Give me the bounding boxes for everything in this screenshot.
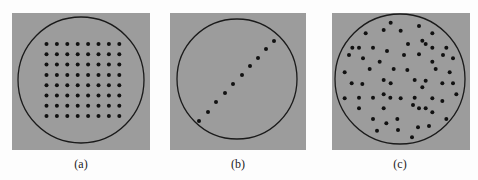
sample-dot (444, 117, 448, 121)
sample-dot (343, 70, 347, 74)
sample-dot (427, 124, 431, 128)
sample-dot (430, 31, 434, 35)
sample-dot (86, 73, 90, 77)
sample-dot (371, 117, 375, 121)
panel-c (332, 13, 470, 150)
sample-dot (55, 94, 59, 98)
sample-dot (65, 73, 69, 77)
boundary-circle (18, 17, 144, 143)
sample-dot (86, 114, 90, 118)
sample-dot (357, 96, 361, 100)
sample-dot (440, 81, 444, 85)
sample-dot (430, 46, 434, 50)
sample-dot (117, 104, 121, 108)
sample-dot (350, 46, 354, 50)
sample-dot (420, 39, 424, 43)
sample-dot (382, 28, 386, 32)
sample-dot (97, 52, 101, 56)
sample-dot (97, 83, 101, 87)
sample-dot (382, 92, 386, 96)
sample-dot (107, 94, 111, 98)
sample-dot (117, 83, 121, 87)
sample-dot (107, 114, 111, 118)
sample-dot (45, 104, 49, 108)
sample-dot (413, 78, 417, 82)
sample-dot (402, 53, 406, 57)
sample-dot (55, 52, 59, 56)
sample-dot (417, 24, 421, 28)
sample-dot (357, 46, 361, 50)
sample-dot (451, 81, 455, 85)
sample-dot (451, 56, 455, 60)
sample-dot (45, 94, 49, 98)
sample-dot (399, 29, 403, 33)
sample-dot (424, 42, 428, 46)
sample-dot (55, 42, 59, 46)
sample-dot (406, 42, 410, 46)
sample-dot (107, 42, 111, 46)
sample-dot (97, 94, 101, 98)
sample-dot (410, 135, 414, 139)
sample-dot (392, 67, 396, 71)
sample-dot (65, 52, 69, 56)
sample-dot (382, 78, 386, 82)
sample-dot (76, 94, 80, 98)
sample-dot (399, 96, 403, 100)
sample-dot (86, 94, 90, 98)
sample-dot (248, 64, 252, 68)
sample-dot (76, 83, 80, 87)
sample-dot (76, 104, 80, 108)
sample-dot (378, 60, 382, 64)
sample-dot (364, 31, 368, 35)
sample-dot (357, 106, 361, 110)
sample-dot (97, 104, 101, 108)
sample-dot (86, 63, 90, 67)
sample-dot (117, 42, 121, 46)
sample-dot (430, 110, 434, 114)
sample-dot (430, 96, 434, 100)
sample-dot (76, 52, 80, 56)
sample-dot (389, 21, 393, 25)
sample-dot (223, 91, 227, 95)
sample-dot (360, 82, 364, 86)
sample-dot (231, 82, 235, 86)
sample-dot (45, 83, 49, 87)
sample-dot (86, 83, 90, 87)
sample-dot (55, 63, 59, 67)
sample-dot (214, 100, 218, 104)
sample-dot (45, 73, 49, 77)
sample-dot (97, 63, 101, 67)
sample-dot (197, 119, 201, 123)
sample-dot (382, 106, 386, 110)
sample-dot (55, 73, 59, 77)
sample-dot (272, 39, 276, 43)
sample-dot (76, 42, 80, 46)
sample-dot (76, 114, 80, 118)
sample-dot (117, 94, 121, 98)
sample-dot (107, 52, 111, 56)
sample-dot (441, 53, 445, 57)
sample-dot (347, 53, 351, 57)
sample-dot (430, 60, 434, 64)
sample-dot (448, 70, 452, 74)
panel-b (170, 13, 306, 150)
sample-dot (65, 104, 69, 108)
line-sampling-diagram (170, 13, 306, 150)
sample-dot (417, 106, 421, 110)
caption-c: (c) (380, 157, 420, 172)
sample-dot (256, 56, 260, 60)
sample-dot (405, 68, 409, 72)
sample-dot (361, 56, 365, 60)
sample-dot (384, 121, 388, 125)
sample-dot (388, 96, 392, 100)
sample-dot (424, 106, 428, 110)
sample-dot (76, 63, 80, 67)
sample-dot (396, 128, 400, 132)
sample-dot (343, 96, 347, 100)
sample-dot (413, 96, 417, 100)
caption-b: (b) (218, 157, 258, 172)
sample-dot (45, 114, 49, 118)
sample-dot (411, 103, 415, 107)
sample-dot (416, 125, 420, 129)
sample-dot (107, 83, 111, 87)
